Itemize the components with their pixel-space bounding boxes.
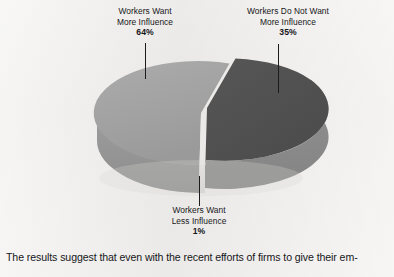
caption-text: The results suggest that even with the r… bbox=[6, 251, 392, 264]
label-more-influence-line1: Workers Want bbox=[83, 6, 207, 17]
pie-chart-figure: Workers Want More Influence 64% Workers … bbox=[0, 0, 394, 246]
leader-line-do-not-want bbox=[278, 44, 279, 93]
label-do-not-want-line2: More Influence bbox=[218, 17, 358, 28]
label-more-influence: Workers Want More Influence 64% bbox=[83, 6, 207, 38]
label-less-influence-line1: Workers Want bbox=[131, 205, 267, 216]
pie-shadow bbox=[99, 160, 303, 196]
label-do-not-want: Workers Do Not Want More Influence 35% bbox=[218, 6, 358, 38]
label-less-influence-percent: 1% bbox=[131, 226, 267, 237]
label-do-not-want-percent: 35% bbox=[218, 27, 358, 38]
label-less-influence: Workers Want Less Influence 1% bbox=[131, 205, 267, 237]
leader-line-more-influence bbox=[145, 43, 146, 79]
label-do-not-want-line1: Workers Do Not Want bbox=[218, 6, 358, 17]
label-more-influence-percent: 64% bbox=[83, 27, 207, 38]
label-more-influence-line2: More Influence bbox=[83, 17, 207, 28]
label-less-influence-line2: Less Influence bbox=[131, 216, 267, 227]
leader-line-less-influence bbox=[199, 176, 200, 206]
caption-area: The results suggest that even with the r… bbox=[0, 248, 394, 277]
